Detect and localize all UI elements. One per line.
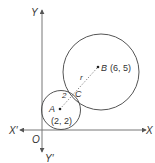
point-a-coords: (2, 2) (51, 116, 72, 126)
point-a-label: A (48, 104, 55, 114)
x-neg-axis-label: X′ (8, 125, 19, 136)
y-neg-axis-label: Y′ (45, 153, 55, 163)
point-a (59, 108, 62, 111)
x-axis-label: X (145, 125, 153, 136)
origin-label: O (32, 134, 40, 145)
segment-ac-label: 2 (61, 91, 67, 100)
coordinate-diagram: Y Y′ X X′ O B (6, 5) A (2, 2) C 2 r (0, 0, 155, 163)
point-b-coords: (6, 5) (110, 63, 131, 73)
segment-bc-label: r (80, 73, 83, 82)
y-axis-label: Y (31, 7, 39, 18)
point-b-label: B (101, 63, 107, 73)
point-b (97, 66, 100, 69)
point-c-label: C (75, 89, 82, 99)
